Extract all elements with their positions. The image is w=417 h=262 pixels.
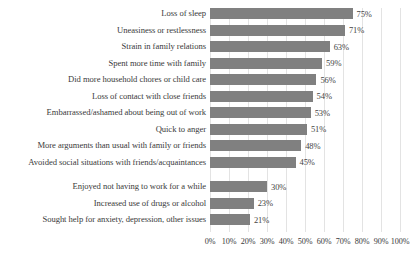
category-label: Loss of sleep	[161, 8, 206, 19]
category-label: More arguments than usual with family or…	[37, 140, 206, 151]
bar-row: 45%	[210, 157, 400, 168]
x-axis-tick-labels: 0%10%20%30%40%50%60%70%80%90%100%	[210, 236, 400, 250]
bar-row: 59%	[210, 58, 400, 69]
bar-value-label: 75%	[357, 9, 372, 18]
bar	[210, 157, 296, 168]
bar-row: 71%	[210, 25, 400, 36]
bar-value-label: 53%	[315, 108, 330, 117]
bar-value-label: 45%	[300, 158, 315, 167]
x-tick-label: 0%	[205, 236, 216, 247]
bar	[210, 91, 313, 102]
category-label: Embarrassed/ashamed about being out of w…	[47, 107, 206, 118]
category-label: Spent more time with family	[109, 58, 206, 69]
x-tick-label: 70%	[336, 236, 351, 247]
bar-value-label: 51%	[311, 125, 326, 134]
x-tick-label: 50%	[298, 236, 313, 247]
bar-chart: 75%71%63%59%56%54%53%51%48%45%30%23%21% …	[0, 0, 417, 262]
x-tick-label: 80%	[355, 236, 370, 247]
bar	[210, 25, 345, 36]
category-label: Increased use of drugs or alcohol	[94, 198, 206, 209]
category-label: Strain in family relations	[122, 41, 206, 52]
bar-row: 53%	[210, 107, 400, 118]
category-label: Avoided social situations with friends/a…	[28, 157, 206, 168]
bar-row: 30%	[210, 181, 400, 192]
bar	[210, 74, 316, 85]
bar-row: 56%	[210, 74, 400, 85]
bar-value-label: 21%	[254, 215, 269, 224]
category-label: Sought help for anxiety, depression, oth…	[42, 214, 206, 225]
bar-value-label: 63%	[334, 42, 349, 51]
category-label: Enjoyed not having to work for a while	[73, 181, 206, 192]
bar-row: 23%	[210, 198, 400, 209]
bar	[210, 124, 307, 135]
bar-value-label: 23%	[258, 199, 273, 208]
category-label: Loss of contact with close friends	[92, 91, 206, 102]
x-tick-label: 60%	[317, 236, 332, 247]
bar-value-label: 54%	[317, 92, 332, 101]
bar-rows: 75%71%63%59%56%54%53%51%48%45%30%23%21%	[210, 8, 400, 232]
category-label: Did more household chores or child care	[68, 74, 206, 85]
bar	[210, 58, 322, 69]
x-tick-label: 10%	[222, 236, 237, 247]
bar	[210, 198, 254, 209]
bar-row: 54%	[210, 91, 400, 102]
bar-value-label: 30%	[271, 182, 286, 191]
bar-row: 48%	[210, 140, 400, 151]
bar	[210, 8, 353, 19]
x-tick-label: 90%	[374, 236, 389, 247]
bar	[210, 140, 301, 151]
category-label: Uneasiness or restlessness	[117, 25, 206, 36]
bar-value-label: 56%	[320, 75, 335, 84]
bar	[210, 181, 267, 192]
bar-row: 63%	[210, 41, 400, 52]
bar	[210, 214, 250, 225]
gridline-100	[400, 8, 401, 232]
bar-row: 21%	[210, 214, 400, 225]
bar	[210, 41, 330, 52]
bar	[210, 107, 311, 118]
x-tick-label: 30%	[260, 236, 275, 247]
category-axis-labels: Loss of sleepUneasiness or restlessnessS…	[0, 8, 206, 232]
category-label: Quick to anger	[156, 124, 206, 135]
bar-value-label: 59%	[326, 59, 341, 68]
plot-area: 75%71%63%59%56%54%53%51%48%45%30%23%21%	[210, 8, 400, 232]
bar-value-label: 48%	[305, 141, 320, 150]
x-tick-label: 20%	[241, 236, 256, 247]
bar-row: 51%	[210, 124, 400, 135]
bar-row: 75%	[210, 8, 400, 19]
x-tick-label: 100%	[391, 236, 410, 247]
bar-value-label: 71%	[349, 26, 364, 35]
x-tick-label: 40%	[279, 236, 294, 247]
